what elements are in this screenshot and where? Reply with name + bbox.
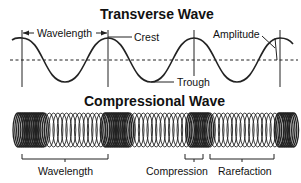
wavelength-label-transverse: Wavelength <box>37 27 92 39</box>
wavelength-label-compressional: Wavelength <box>38 165 93 177</box>
compression-bracket <box>185 154 203 162</box>
arrow-right-icon <box>101 31 107 36</box>
trough-label: Trough <box>177 76 210 88</box>
rarefaction-bracket <box>210 154 274 162</box>
transverse-title: Transverse Wave <box>100 6 214 22</box>
amplitude-bar <box>275 38 277 60</box>
compressional-title: Compressional Wave <box>84 93 225 109</box>
rarefaction-label: Rarefaction <box>218 165 272 177</box>
wavelength-bracket <box>22 154 108 162</box>
spring-coils <box>13 113 299 147</box>
arrow-left-icon <box>23 31 29 36</box>
amplitude-leader <box>262 36 275 48</box>
compression-label: Compression <box>146 165 208 177</box>
amplitude-label: Amplitude <box>213 28 260 40</box>
crest-label: Crest <box>134 31 159 43</box>
